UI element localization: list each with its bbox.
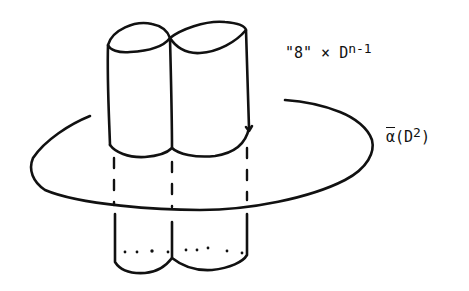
disk-label-close: ) (421, 128, 430, 146)
lower-cylinder-walls (115, 214, 247, 273)
figure-eight-cylinder-diagram: "8" × Dn-1 α(D2) (0, 0, 469, 291)
product-label: "8" × Dn-1 (285, 44, 372, 62)
disk-label: α(D2) (386, 128, 430, 146)
figure-eight-top-outline (108, 22, 246, 53)
alpha-bar-symbol: α (386, 128, 395, 146)
lower-dotted-edges (124, 247, 244, 255)
product-label-base: "8" × D (285, 44, 348, 62)
disk-label-open: (D (395, 128, 413, 146)
disk-label-exponent: 2 (413, 125, 421, 140)
product-label-exponent: n-1 (348, 41, 371, 56)
disk-ellipse (31, 100, 373, 210)
